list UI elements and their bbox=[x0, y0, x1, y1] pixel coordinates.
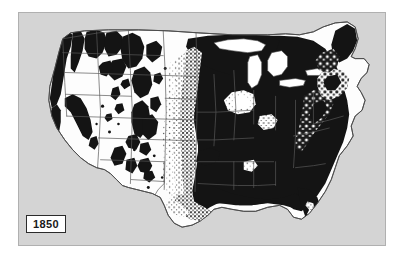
us-forest-cover-map bbox=[19, 13, 385, 245]
figure-root: 1850 bbox=[0, 0, 403, 261]
year-badge: 1850 bbox=[26, 215, 66, 233]
map-panel: 1850 bbox=[18, 12, 386, 246]
